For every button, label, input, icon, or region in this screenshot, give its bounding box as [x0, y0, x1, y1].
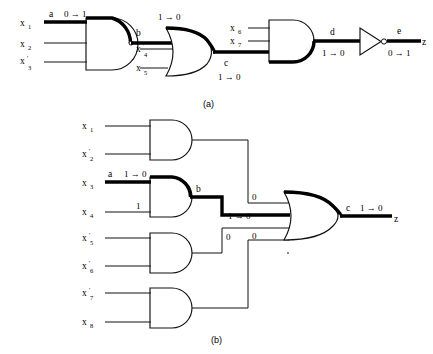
label-a-x2-sub: 2: [28, 44, 31, 51]
label-a-x4-prime-mark: ': [143, 42, 144, 49]
label-b-x1-sub: 1: [90, 126, 93, 133]
label-a-x6-sub: 6: [238, 28, 242, 35]
label-b-x7-sub: 7: [90, 294, 94, 301]
label-a-signal-a-transition: 0 → 1: [64, 9, 87, 19]
and-gate-4b-body: [150, 288, 192, 328]
caption-a: (a): [203, 99, 214, 109]
label-b-signal-c: c: [346, 203, 350, 213]
label-a-x5: x: [136, 63, 141, 73]
label-a-x3-prime-mark: ': [27, 54, 28, 61]
label-b-signal-a-transition: 1 → 0: [124, 169, 147, 179]
label-b-x8-sub: 8: [90, 322, 93, 329]
caption-b: (b): [211, 335, 222, 345]
label-b-x3-sub: 3: [90, 183, 93, 190]
label-b-x2-sub: 2: [90, 155, 93, 162]
label-b-or-input-2: 1 → 0: [228, 211, 251, 221]
label-b-x4-sub: 4: [90, 212, 94, 219]
label-b-x1: x: [82, 121, 87, 131]
label-b-or-input-4: 0: [252, 231, 257, 241]
wire-b-and1-out: [192, 140, 290, 203]
inverter-1a-body: [360, 28, 381, 55]
label-a-x4prime: x: [136, 44, 141, 54]
label-b-x2prime: x: [82, 149, 87, 159]
label-a-signal-d: d: [330, 27, 335, 37]
and-gate-1b-body: [150, 120, 192, 160]
label-b-x7-prime-mark: ': [89, 286, 90, 293]
label-b-x8: x: [82, 317, 87, 327]
label-a-output-z: z: [422, 37, 426, 47]
label-b-or-input-3: 0: [226, 232, 231, 242]
label-b-x5-prime-mark: ': [89, 231, 90, 238]
label-b-signal-c-transition: 1 → 0: [360, 203, 383, 213]
label-b-value-x4: 1: [136, 201, 141, 211]
label-a-signal-b-transition: 1 → 0: [158, 12, 181, 22]
label-a-x5-sub: 5: [144, 69, 147, 76]
label-b-signal-a: a: [108, 169, 113, 179]
label-b-x6-prime-mark: ': [89, 259, 90, 266]
label-a-signal-b: b: [136, 28, 141, 38]
label-b-x4: x: [82, 207, 87, 217]
label-b-x5-sub: 5: [90, 239, 93, 246]
wire-b-and4-out: [192, 240, 290, 308]
inverter-1a-bubble: [381, 39, 386, 44]
label-a-signal-c: c: [224, 58, 228, 68]
label-b-x6-sub: 6: [90, 267, 94, 274]
stray-dot: [287, 252, 289, 254]
label-a-x1-sub: 1: [28, 23, 31, 30]
label-a-x1: x: [20, 18, 25, 28]
label-a-x7-sub: 7: [238, 41, 242, 48]
circuit-svg: x 1 x 2 x ' 3 a 0 → 1 b 1 → 0 x ' 4 x 5 …: [0, 0, 433, 354]
label-a-x7: x: [230, 36, 235, 46]
label-a-signal-e: e: [397, 26, 401, 36]
label-a-x6: x: [230, 23, 235, 33]
and-gate-3b-body: [150, 233, 192, 273]
label-b-x5prime: x: [82, 233, 87, 243]
label-b-signal-b: b: [196, 184, 201, 194]
or-gate-1b-body: [284, 192, 338, 240]
label-b-x3: x: [82, 178, 87, 188]
label-a-x4-sub: 4: [144, 51, 148, 58]
label-a-x3-sub: 3: [28, 64, 31, 71]
label-a-signal-d-transition: 1 → 0: [322, 48, 345, 58]
label-a-x3prime: x: [20, 56, 25, 66]
label-b-x7prime: x: [82, 288, 87, 298]
label-a-signal-e-transition: 0 → 1: [388, 48, 411, 58]
label-b-x6prime: x: [82, 261, 87, 271]
label-b-output-z: z: [394, 214, 398, 224]
label-a-signal-a: a: [49, 9, 54, 19]
label-b-x2-prime-mark: ': [89, 147, 90, 154]
or-gate-1a-body: [166, 28, 212, 76]
label-b-or-input-1: 0: [252, 192, 257, 202]
label-a-x2: x: [20, 39, 25, 49]
figure-container: x 1 x 2 x ' 3 a 0 → 1 b 1 → 0 x ' 4 x 5 …: [0, 0, 433, 354]
label-a-signal-c-transition: 1 → 0: [218, 72, 241, 82]
